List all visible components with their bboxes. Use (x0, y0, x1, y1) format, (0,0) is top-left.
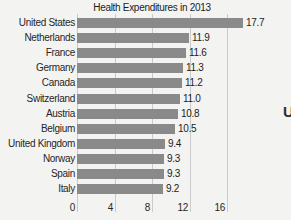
category-label: Switzerland (0, 93, 75, 105)
value-label: 11.2 (185, 77, 203, 89)
category-label: Netherlands (0, 32, 75, 44)
value-label: 10.5 (178, 123, 196, 135)
value-label: 9.2 (166, 183, 179, 195)
clipped-adjacent-text-fragment: U (283, 103, 291, 120)
category-label: Norway (0, 153, 75, 165)
category-label: Germany (0, 62, 75, 74)
x-tick-label: 8 (122, 202, 150, 213)
value-label: 10.8 (181, 108, 199, 120)
value-label: 9.3 (167, 153, 180, 165)
x-tick-label: 4 (85, 202, 113, 213)
bar (77, 94, 180, 104)
bar (77, 124, 175, 134)
chart-title: Health Expenditures in 2013 (13, 2, 291, 13)
value-label: 9.3 (167, 168, 180, 180)
value-label: 17.7 (246, 17, 264, 29)
category-label: United States (0, 17, 75, 29)
bar (77, 48, 186, 58)
category-label: Italy (0, 183, 75, 195)
value-label: 11.6 (189, 47, 207, 59)
bar (77, 63, 183, 73)
health-expenditures-bar-chart: Health Expenditures in 2013 U 0481216Uni… (0, 0, 291, 220)
bar (77, 169, 164, 179)
value-label: 9.4 (168, 138, 181, 150)
bar (77, 139, 165, 149)
bar (77, 109, 178, 119)
value-label: 11.9 (192, 32, 210, 44)
category-label: Spain (0, 168, 75, 180)
category-label: Austria (0, 108, 75, 120)
x-tick-label: 16 (197, 202, 225, 213)
gridline (227, 14, 228, 212)
bar (77, 184, 163, 194)
x-tick-label: 12 (160, 202, 188, 213)
category-label: Belgium (0, 123, 75, 135)
category-label: United Kingdom (0, 138, 75, 150)
category-label: Canada (0, 77, 75, 89)
category-label: France (0, 47, 75, 59)
bar (77, 33, 189, 43)
bar (77, 154, 164, 164)
x-tick-label: 0 (47, 202, 75, 213)
bar (77, 78, 182, 88)
bar (77, 18, 243, 28)
value-label: 11.0 (183, 93, 201, 105)
value-label: 11.3 (186, 62, 204, 74)
